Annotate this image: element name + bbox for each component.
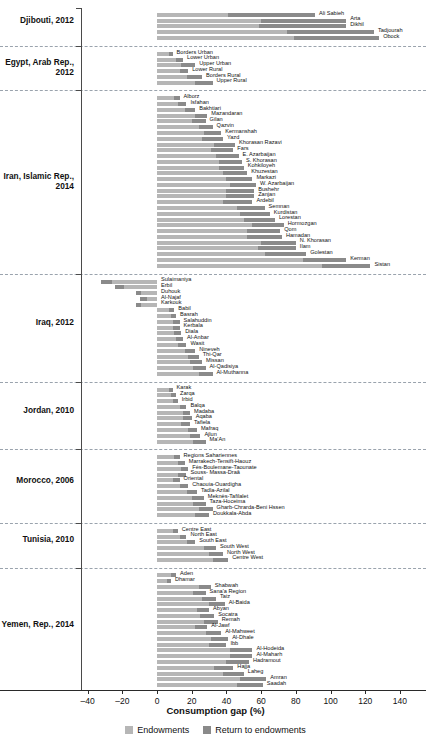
bar-row: Sana'a Region <box>81 591 426 595</box>
bar-segment-return-to-endowments <box>173 326 180 330</box>
bar-segment-return-to-endowments <box>101 280 111 284</box>
bar-segment-return-to-endowments <box>261 19 346 23</box>
bar-segment-endowments <box>157 264 322 268</box>
bar-row: Mafraq <box>81 428 426 432</box>
bar-segment-endowments <box>157 218 244 222</box>
bar-segment-endowments <box>157 507 199 511</box>
bar-segment-return-to-endowments <box>230 648 253 652</box>
group-label-djibouti-2012: Djibouti, 2012 <box>0 15 74 25</box>
bar-row: Ibb <box>81 643 426 647</box>
bar-row: Upper Urban <box>81 63 426 67</box>
bar-segment-endowments <box>157 648 230 652</box>
bar-segment-endowments <box>157 637 211 641</box>
bar-row: Al-Anbar <box>81 337 426 341</box>
bar-segment-endowments <box>157 355 188 359</box>
bar-segment-endowments <box>157 212 240 216</box>
x-axis-tick <box>157 690 158 694</box>
bar-label: Dikhil <box>350 21 364 27</box>
bar-row: Kermanshah <box>81 131 426 135</box>
bar-segment-endowments <box>157 573 171 577</box>
bar-segment-return-to-endowments <box>192 496 204 500</box>
bar-segment-endowments <box>157 19 261 23</box>
bar-row: Obock <box>81 36 426 40</box>
bar-segment-endowments <box>157 416 183 420</box>
group-label-tunisia-2010: Tunisia, 2010 <box>0 534 74 544</box>
bar-segment-return-to-endowments <box>237 683 263 687</box>
bar-segment-endowments <box>157 614 200 618</box>
legend-item-endowments: Endowments <box>125 725 189 735</box>
bar-segment-endowments <box>157 13 228 17</box>
bar-segment-return-to-endowments <box>252 223 283 227</box>
bar-row: Salahuddin <box>81 320 426 324</box>
bar-row: Remah <box>81 620 426 624</box>
x-axis-tick <box>226 690 227 694</box>
group-separator <box>0 523 426 524</box>
bar-row: Karkouk <box>81 303 426 307</box>
bar-segment-endowments <box>157 372 199 376</box>
bar-segment-endowments <box>157 320 173 324</box>
bar-segment-endowments <box>157 502 193 506</box>
bar-row: Upper Rural <box>81 81 426 85</box>
bar-segment-endowments <box>157 183 230 187</box>
bar-segment-endowments <box>157 467 181 471</box>
bar-row: Missan <box>81 360 426 364</box>
bar-segment-endowments <box>157 314 171 318</box>
group-label-iran-islamic-rep-2014: Iran, Islamic Rep., 2014 <box>0 171 74 191</box>
bar-segment-endowments <box>157 166 219 170</box>
bar-segment-return-to-endowments <box>226 189 254 193</box>
bar-segment-return-to-endowments <box>199 372 213 376</box>
bar-row: Lower Urban <box>81 58 426 62</box>
consumption-gap-chart: Djibouti, 2012Ali SabiehArtaDikhilTadjou… <box>0 0 431 749</box>
bar-segment-return-to-endowments <box>169 388 172 392</box>
bar-segment-return-to-endowments <box>294 36 379 40</box>
bar-segment-return-to-endowments <box>178 102 187 106</box>
x-axis-tick <box>192 690 193 694</box>
bar-segment-endowments <box>157 529 173 533</box>
bar-row: Wasit <box>81 343 426 347</box>
bar-segment-endowments <box>157 131 204 135</box>
bar-segment-return-to-endowments <box>176 337 183 341</box>
bar-row: Meknès-Tafilalet <box>81 496 426 500</box>
bar-segment-endowments <box>157 677 240 681</box>
bar-segment-return-to-endowments <box>214 666 233 670</box>
bar-segment-return-to-endowments <box>211 637 228 641</box>
bar-segment-return-to-endowments <box>173 529 178 533</box>
bar-label: Ilam <box>300 243 311 249</box>
bar-segment-endowments <box>157 535 180 539</box>
bar-segment-endowments <box>157 137 202 141</box>
bar-segment-endowments <box>157 81 195 85</box>
bar-segment-return-to-endowments <box>223 672 244 676</box>
bar-segment-endowments <box>157 69 180 73</box>
bar-row: Bushehr <box>81 189 426 193</box>
bar-row: Al-Najaf <box>81 297 426 301</box>
bar-segment-endowments <box>157 484 180 488</box>
group-axis-tick <box>76 449 82 450</box>
bar-row: Oriental <box>81 478 426 482</box>
bar-segment-return-to-endowments <box>199 507 213 511</box>
bar-row: Semnan <box>81 206 426 210</box>
bar-segment-return-to-endowments <box>226 194 254 198</box>
x-axis-tick <box>296 690 297 694</box>
bar-segment-return-to-endowments <box>197 608 209 612</box>
bar-segment-endowments <box>157 393 171 397</box>
bar-row: Gharb-Chrarda-Beni Hssen <box>81 507 426 511</box>
bar-row: South East <box>81 540 426 544</box>
bar-segment-return-to-endowments <box>213 558 229 562</box>
bar-segment-endowments <box>141 303 157 307</box>
bar-segment-endowments <box>157 143 214 147</box>
bar-segment-endowments <box>157 683 237 687</box>
bar-segment-return-to-endowments <box>226 177 252 181</box>
bar-segment-endowments <box>157 399 173 403</box>
bar-segment-return-to-endowments <box>258 246 296 250</box>
bar-segment-return-to-endowments <box>209 552 223 556</box>
bar-segment-return-to-endowments <box>180 69 189 73</box>
bar-segment-return-to-endowments <box>185 108 195 112</box>
bar-segment-return-to-endowments <box>187 75 203 79</box>
bar-row: Zarqa <box>81 393 426 397</box>
bar-segment-endowments <box>157 349 185 353</box>
group-axis-tick <box>76 523 82 524</box>
bar-segment-endowments <box>157 148 211 152</box>
bar-segment-return-to-endowments <box>287 30 374 34</box>
plot-area: Djibouti, 2012Ali SabiehArtaDikhilTadjou… <box>81 8 426 690</box>
bar-segment-endowments <box>157 246 258 250</box>
